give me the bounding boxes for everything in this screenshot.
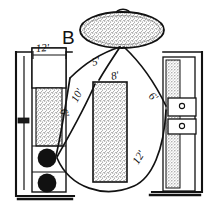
oval-sink-basin — [80, 12, 164, 48]
dimension-label-sink-to-island: 8' — [110, 68, 121, 82]
center-island-surface — [93, 82, 127, 182]
cooktop-burner-rear — [38, 174, 57, 193]
diagram-canvas: B 12' 5' 8' 6' 6' 10' 12' — [0, 0, 217, 216]
drawer-stack — [168, 98, 196, 134]
drawer-upper-knob-icon — [179, 103, 184, 108]
drawer-lower-knob-icon — [179, 123, 184, 128]
dimension-label-range-to-refrigerator: 12' — [130, 148, 148, 166]
left-counter-surface — [36, 88, 62, 146]
kitchen-work-triangle-diagram: B 12' 5' 8' 6' 6' 10' 12' — [0, 0, 217, 216]
zone-label-b: B — [62, 27, 75, 48]
dimension-label-top-left-width: 12' — [35, 41, 50, 54]
cooktop-burner-front — [38, 149, 57, 168]
right-counter-run — [150, 52, 202, 195]
wall-outlet-mark — [18, 118, 29, 123]
oval-sink — [80, 9, 164, 48]
dimension-label-range-to-island: 10' — [68, 86, 85, 104]
center-island — [93, 82, 127, 182]
left-counter-run — [16, 48, 74, 199]
line-sink-to-right-counter — [124, 47, 166, 106]
